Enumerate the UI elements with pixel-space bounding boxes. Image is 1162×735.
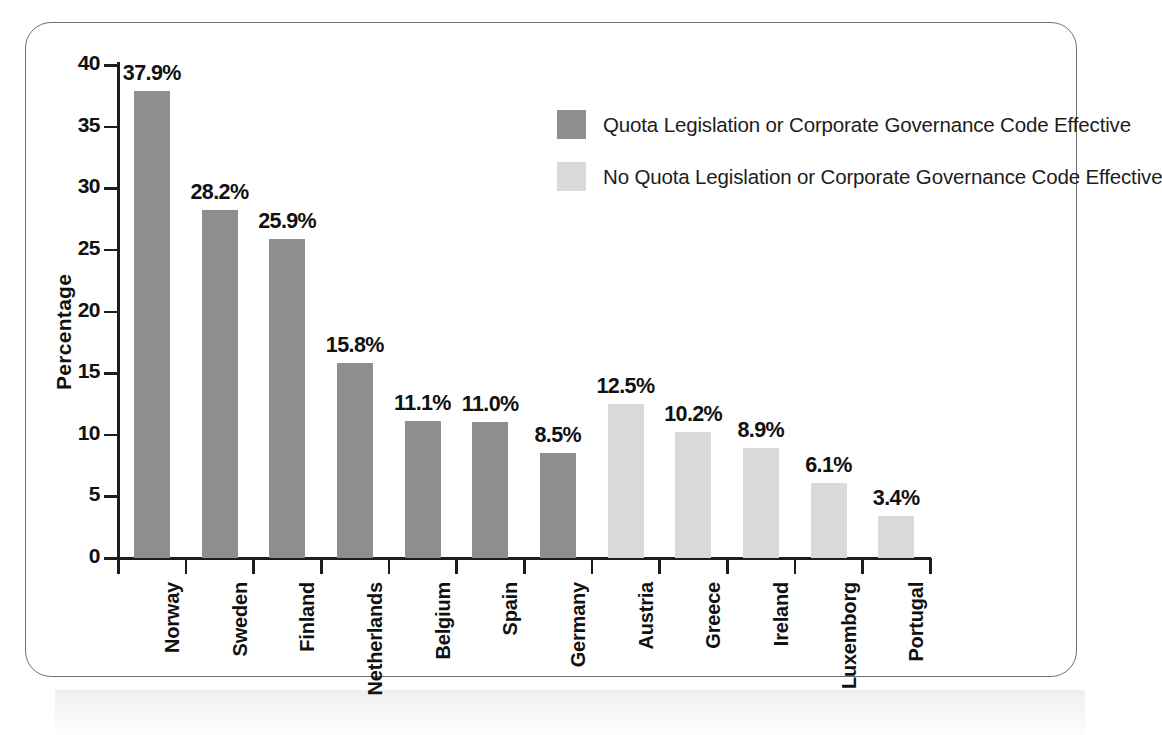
bar-value-label-ireland: 8.9% bbox=[723, 418, 799, 443]
x-axis-tick bbox=[794, 558, 797, 574]
bar-austria bbox=[608, 404, 644, 558]
bar-value-label-greece: 10.2% bbox=[655, 402, 731, 427]
bar-value-label-netherlands: 15.8% bbox=[317, 333, 393, 358]
x-axis-tick bbox=[388, 558, 391, 574]
category-label-netherlands: Netherlands bbox=[364, 582, 387, 695]
y-axis-tick bbox=[104, 557, 118, 560]
bar-norway bbox=[134, 91, 170, 558]
bar-value-label-germany: 8.5% bbox=[520, 423, 596, 448]
x-axis-tick bbox=[929, 558, 932, 574]
bar-portugal bbox=[878, 516, 914, 558]
bar-ireland bbox=[743, 448, 779, 558]
bar-greece bbox=[675, 432, 711, 558]
x-axis-tick bbox=[591, 558, 594, 574]
y-axis-tick bbox=[104, 249, 118, 252]
y-axis-tick-label: 0 bbox=[60, 544, 100, 568]
chart-legend: Quota Legislation or Corporate Governanc… bbox=[557, 106, 1162, 210]
y-axis-tick-label: 10 bbox=[60, 421, 100, 445]
category-label-portugal: Portugal bbox=[905, 582, 928, 662]
y-axis-tick-label: 35 bbox=[60, 113, 100, 137]
category-label-luxemborg: Luxemborg bbox=[838, 582, 861, 689]
bar-value-label-belgium: 11.1% bbox=[385, 391, 461, 416]
category-label-norway: Norway bbox=[161, 582, 184, 653]
category-label-ireland: Ireland bbox=[770, 582, 793, 646]
category-label-sweden: Sweden bbox=[229, 582, 252, 656]
bar-value-label-portugal: 3.4% bbox=[858, 486, 934, 511]
y-axis-tick-label: 15 bbox=[60, 359, 100, 383]
y-axis-tick bbox=[104, 434, 118, 437]
category-label-belgium: Belgium bbox=[432, 582, 455, 660]
category-label-germany: Germany bbox=[567, 582, 590, 667]
legend-item: No Quota Legislation or Corporate Govern… bbox=[557, 158, 1162, 195]
category-label-greece: Greece bbox=[702, 582, 725, 649]
x-axis-tick bbox=[455, 558, 458, 574]
legend-swatch-dark bbox=[557, 110, 586, 139]
x-axis-tick bbox=[658, 558, 661, 574]
legend-label: No Quota Legislation or Corporate Govern… bbox=[603, 165, 1162, 189]
x-axis-tick bbox=[252, 558, 255, 574]
y-axis-tick-label: 30 bbox=[60, 174, 100, 198]
category-label-finland: Finland bbox=[296, 582, 319, 652]
bar-sweden bbox=[202, 210, 238, 558]
bar-value-label-finland: 25.9% bbox=[249, 209, 325, 234]
legend-swatch-light bbox=[557, 162, 586, 191]
x-axis-tick bbox=[117, 558, 120, 574]
x-axis-tick bbox=[320, 558, 323, 574]
y-axis-tick bbox=[104, 126, 118, 129]
x-axis-tick bbox=[185, 558, 188, 574]
category-label-austria: Austria bbox=[635, 582, 658, 650]
bar-value-label-austria: 12.5% bbox=[588, 374, 664, 399]
y-axis-tick-label: 5 bbox=[60, 482, 100, 506]
bar-belgium bbox=[405, 421, 441, 558]
y-axis-tick-label: 20 bbox=[60, 298, 100, 322]
y-axis-tick-label: 25 bbox=[60, 236, 100, 260]
legend-label: Quota Legislation or Corporate Governanc… bbox=[603, 113, 1131, 137]
bar-netherlands bbox=[337, 363, 373, 558]
bar-value-label-spain: 11.0% bbox=[452, 392, 528, 417]
y-axis-tick bbox=[104, 311, 118, 314]
y-axis-tick-label: 40 bbox=[60, 51, 100, 75]
bar-spain bbox=[472, 422, 508, 558]
bar-value-label-sweden: 28.2% bbox=[182, 180, 258, 205]
bar-value-label-luxemborg: 6.1% bbox=[791, 453, 867, 478]
x-axis-tick bbox=[726, 558, 729, 574]
x-axis-tick bbox=[861, 558, 864, 574]
category-label-spain: Spain bbox=[499, 582, 522, 635]
bar-germany bbox=[540, 453, 576, 558]
bar-value-label-norway: 37.9% bbox=[114, 61, 190, 86]
y-axis-tick bbox=[104, 372, 118, 375]
x-axis-tick bbox=[523, 558, 526, 574]
bar-luxemborg bbox=[811, 483, 847, 558]
y-axis-tick bbox=[104, 187, 118, 190]
bar-finland bbox=[269, 239, 305, 558]
legend-item: Quota Legislation or Corporate Governanc… bbox=[557, 106, 1162, 143]
y-axis-tick bbox=[104, 495, 118, 498]
